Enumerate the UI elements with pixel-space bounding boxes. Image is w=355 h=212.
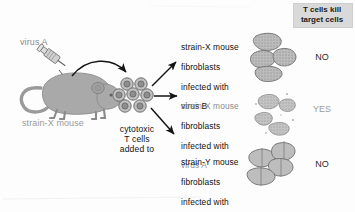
target-3-line-2: fibroblasts <box>181 178 239 188</box>
target-cells-intact-virus-b <box>250 33 296 81</box>
cytotoxic-t-cell-cluster <box>113 78 153 112</box>
target-1-line-2: fibroblasts <box>181 63 239 73</box>
verdict-target-1: NO <box>302 52 342 62</box>
syringe-icon <box>37 43 68 79</box>
strain-x-mouse-label: strain-X mouse <box>22 119 84 129</box>
target-2-line-2: fibroblasts <box>181 122 239 132</box>
verdict-target-3: NO <box>302 159 342 169</box>
target-3-line-1: strain-Y mouse <box>181 158 239 168</box>
virus-a-label: virus A <box>20 38 48 48</box>
verdict-target-2: YES <box>302 104 342 114</box>
target-1-line-1: strain-X mouse <box>181 43 239 53</box>
target-cells-intact-strain-y <box>247 141 295 186</box>
mouse-illustration <box>21 73 128 119</box>
arrow-to-target-1 <box>152 62 176 86</box>
target-1-line-3: infected with <box>181 83 239 93</box>
immunology-diagram: virus A strain-X mouse cytotoxic T cells… <box>0 0 355 212</box>
results-column-header-text: T cells kill target cells <box>293 5 351 24</box>
target-2-line-1: strain-X mouse <box>181 102 239 112</box>
target-3-line-3: infected with <box>181 198 239 208</box>
target-label-3: strain-Y mouse fibroblasts infected with… <box>181 148 239 212</box>
cytotoxic-t-cells-label: cytotoxic T cells added to <box>108 124 166 155</box>
target-cells-lysed-virus-a <box>255 93 295 135</box>
